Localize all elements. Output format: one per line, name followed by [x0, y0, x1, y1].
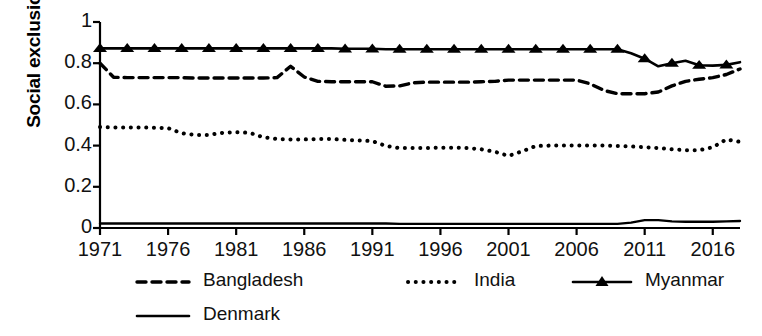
series-india [100, 127, 740, 156]
series-myanmar [93, 43, 740, 69]
series-bangladesh [100, 63, 740, 93]
series-denmark [100, 220, 740, 224]
plot-canvas [0, 0, 762, 336]
chart-figure: Social exclusion 00.20.40.60.81 19711976… [0, 0, 762, 336]
axis-ticks [93, 22, 713, 235]
axes [100, 22, 740, 228]
data-series [93, 43, 740, 224]
